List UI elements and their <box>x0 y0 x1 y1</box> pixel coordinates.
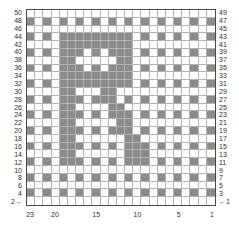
grid-cell <box>52 72 60 80</box>
grid-cell <box>190 189 198 197</box>
grid-cell <box>190 135 198 143</box>
grid-cell <box>166 189 174 197</box>
grid-cell <box>68 119 76 127</box>
grid-cell <box>199 127 207 135</box>
grid-cell <box>52 18 60 26</box>
grid-cell <box>150 104 158 112</box>
grid-cell <box>43 96 51 104</box>
grid-cell <box>35 41 43 49</box>
grid-cell <box>43 65 51 73</box>
grid-cell <box>133 143 141 151</box>
grid-cell <box>84 119 92 127</box>
grid-cell <box>52 189 60 197</box>
grid-cell <box>199 26 207 34</box>
grid-cell <box>174 111 182 119</box>
grid-cell <box>190 80 198 88</box>
grid-cell <box>84 111 92 119</box>
grid-cell <box>109 111 117 119</box>
grid-cell <box>199 135 207 143</box>
grid-cell <box>150 127 158 135</box>
grid-cell <box>158 18 166 26</box>
grid-cell <box>141 166 149 174</box>
grid-cell <box>174 88 182 96</box>
grid-cell <box>133 49 141 57</box>
grid-cell <box>109 80 117 88</box>
grid-cell <box>35 104 43 112</box>
grid-cell <box>158 33 166 41</box>
grid-cell <box>109 49 117 57</box>
grid-cell <box>158 96 166 104</box>
grid-cell <box>117 150 125 158</box>
grid-cell <box>117 143 125 151</box>
grid-cell <box>125 104 133 112</box>
grid-cell <box>60 26 68 34</box>
row-number-right: 27 <box>218 96 239 104</box>
grid-cell <box>158 158 166 166</box>
grid-cell <box>117 111 125 119</box>
grid-cell <box>109 96 117 104</box>
grid-cell <box>92 150 100 158</box>
grid-cell <box>190 96 198 104</box>
grid-cell <box>190 143 198 151</box>
row-number-left: 14 <box>0 151 24 159</box>
grid-cell <box>35 26 43 34</box>
row-number-right: 13 <box>218 151 239 159</box>
grid-cell <box>60 197 68 205</box>
row-number-left: 2→ <box>0 198 24 206</box>
grid-cell <box>150 166 158 174</box>
grid-cell <box>109 150 117 158</box>
grid-cell <box>109 88 117 96</box>
grid-cell <box>141 104 149 112</box>
grid-cell <box>199 80 207 88</box>
grid-cell <box>43 33 51 41</box>
grid-cell <box>166 49 174 57</box>
grid-cell <box>158 182 166 190</box>
grid-cell <box>166 150 174 158</box>
grid-cell <box>43 80 51 88</box>
row-number-left: 20 <box>0 127 24 135</box>
grid-cell <box>133 26 141 34</box>
grid-cell <box>92 174 100 182</box>
grid-cell <box>150 150 158 158</box>
grid-cell <box>133 189 141 197</box>
grid-cell <box>190 26 198 34</box>
grid-cell <box>207 72 215 80</box>
grid-cell <box>84 72 92 80</box>
grid-cell <box>182 72 190 80</box>
grid-cell <box>199 182 207 190</box>
grid-cell <box>101 41 109 49</box>
grid-cell <box>68 158 76 166</box>
grid-cell <box>207 166 215 174</box>
grid-cell <box>84 88 92 96</box>
grid-cell <box>76 10 84 18</box>
grid-cell <box>35 150 43 158</box>
grid-cell <box>101 182 109 190</box>
grid-cell <box>150 26 158 34</box>
grid-cell <box>52 33 60 41</box>
grid-cell <box>109 41 117 49</box>
grid-cell <box>52 150 60 158</box>
grid-cell <box>60 72 68 80</box>
grid-cell <box>141 18 149 26</box>
grid-cell <box>158 135 166 143</box>
grid-cell <box>101 10 109 18</box>
grid-cell <box>207 189 215 197</box>
grid-cell <box>35 72 43 80</box>
grid-cell <box>27 158 35 166</box>
grid-cell <box>117 65 125 73</box>
grid-cell <box>117 80 125 88</box>
grid-cell <box>27 10 35 18</box>
grid-cell <box>133 33 141 41</box>
grid-cell <box>174 166 182 174</box>
grid-cell <box>92 18 100 26</box>
grid-cell <box>27 119 35 127</box>
grid-cell <box>174 49 182 57</box>
grid-cell <box>174 150 182 158</box>
grid-cell <box>141 33 149 41</box>
grid-cell <box>182 104 190 112</box>
grid-cell <box>117 197 125 205</box>
grid-cell <box>43 166 51 174</box>
grid-cell <box>174 104 182 112</box>
row-number-left: 22 <box>0 119 24 127</box>
row-number-left: 42 <box>0 41 24 49</box>
